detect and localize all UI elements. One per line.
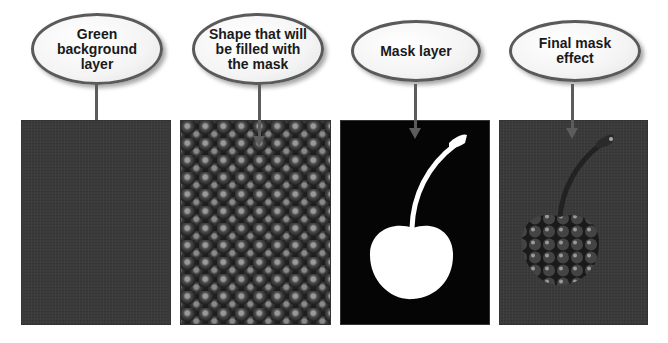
- arrow-stem: [414, 84, 417, 130]
- arrow-stem: [571, 84, 574, 130]
- panel-green-background: [21, 120, 171, 325]
- arrow-down-icon: [409, 128, 421, 139]
- callout-label: Final mask effect: [539, 36, 611, 66]
- callout-label: Mask layer: [380, 44, 452, 59]
- masked-cherry-icon: [500, 121, 648, 325]
- callout-label: Shape that will be filled with the mask: [209, 27, 307, 72]
- panel-mask-layer: [340, 120, 490, 325]
- panel-final-mask-effect: [499, 120, 648, 325]
- callout-bubble-shape: Shape that will be filled with the mask: [192, 13, 324, 85]
- callout-bubble-green-background: Green background layer: [31, 13, 163, 85]
- callout-label: Green background layer: [57, 27, 137, 72]
- callout-bubble-final-effect: Final mask effect: [509, 20, 641, 82]
- cherry-silhouette-icon: [341, 121, 490, 325]
- panel-cherry-texture: [180, 120, 331, 325]
- callout-bubble-mask-layer: Mask layer: [351, 20, 481, 82]
- arrow-down-icon: [566, 128, 578, 139]
- arrow-down-icon: [253, 136, 265, 147]
